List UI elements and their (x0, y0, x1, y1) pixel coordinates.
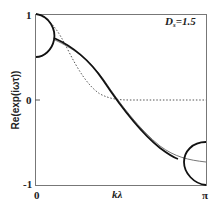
ds-annotation-rest: =1.5 (176, 15, 197, 27)
x-label: kλ (112, 188, 123, 200)
y-tick-0: 0 (26, 94, 32, 106)
y-axis-label: Re(exp(iωτ)) (10, 71, 21, 130)
main-solid-curve (54, 38, 178, 159)
ds-annotation-main: D (164, 15, 173, 27)
right-semicircle-branch (184, 142, 206, 185)
chart: 1 0 -1 0 kλ π Re(exp(iωτ)) Ds=1.5 (0, 0, 219, 209)
thin-solid-curve (55, 40, 206, 162)
ds-annotation: Ds=1.5 (164, 15, 196, 29)
y-tick-1: 1 (26, 9, 32, 21)
left-semicircle-branch (36, 14, 54, 57)
x-tick-pi: π (202, 189, 208, 201)
x-tick-0: 0 (34, 189, 40, 201)
y-tick-neg1: -1 (23, 178, 32, 190)
